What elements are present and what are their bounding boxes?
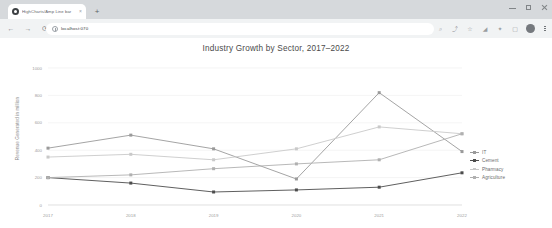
browser-tab[interactable]: HighCharts/Amp Line bar × [8,4,86,19]
browser-window: HighCharts/Amp Line bar × + ← → ⟳ localh… [0,0,552,228]
cast-icon[interactable]: ◢ [481,25,489,33]
legend-marker-icon [470,176,479,180]
tab-strip: HighCharts/Amp Line bar × + [0,0,552,19]
legend-label: IT [482,150,486,155]
data-point [129,153,132,156]
x-axis-tick: 2020 [292,213,302,218]
legend-label: Agriculture [482,175,505,180]
site-info-icon[interactable] [52,26,58,32]
line-chart: 0200400600800100020172018201920202021202… [0,38,552,228]
address-bar[interactable]: localhost:070 [46,23,434,35]
y-axis-tick: 1000 [32,66,42,71]
series-line-agriculture [48,134,462,178]
data-point [47,176,50,179]
legend-label: Pharmacy [482,167,503,172]
legend-item-it[interactable]: IT [470,150,505,155]
x-axis-tick: 2019 [209,213,219,218]
data-point [212,147,215,150]
x-axis-tick: 2017 [43,213,53,218]
page-content: Industry Growth by Sector, 2017–2022 Rev… [0,38,552,228]
maximize-icon[interactable] [525,4,532,11]
close-window-icon[interactable] [541,4,548,11]
data-point [212,190,215,193]
data-point [461,171,464,174]
y-axis-tick: 600 [35,120,43,125]
series-line-pharmacy [48,127,462,160]
data-point [461,150,464,153]
data-point [129,182,132,185]
extensions-icon[interactable]: ✦ [496,25,504,33]
share-icon[interactable]: ⤴ [451,25,459,33]
x-axis-tick: 2021 [374,213,384,218]
bookmark-star-icon[interactable]: ☆ [466,25,474,33]
search-icon[interactable]: ⌕ [436,25,444,33]
y-axis-tick: 400 [35,148,43,153]
tab-close-icon[interactable]: × [79,9,82,14]
x-axis-tick: 2018 [126,213,136,218]
legend-item-agriculture[interactable]: Agriculture [470,175,505,180]
data-point [295,188,298,191]
data-point [295,147,298,150]
legend-item-pharmacy[interactable]: Pharmacy [470,167,505,172]
data-point [378,91,381,94]
legend-marker-icon [470,159,479,163]
data-point [47,156,50,159]
forward-button[interactable]: → [22,23,34,35]
data-point [212,167,215,170]
data-point [129,173,132,176]
data-point [47,147,50,150]
legend-marker-icon [470,151,479,155]
browser-toolbar: ← → ⟳ localhost:070 ⌕ ⤴ ☆ ◢ ✦ ▢ [0,19,552,38]
profile-avatar[interactable] [526,24,535,33]
data-point [129,134,132,137]
chrome-menu-icon[interactable] [542,26,548,32]
y-axis-tick: 800 [35,93,43,98]
legend-item-cement[interactable]: Cement [470,158,505,163]
data-point [378,125,381,128]
y-axis-tick: 200 [35,175,43,180]
data-point [212,158,215,161]
x-axis-tick: 2022 [457,213,467,218]
new-tab-button[interactable]: + [92,7,102,17]
chart-legend: ITCementPharmacyAgriculture [470,150,505,180]
toolbar-icon-group: ⌕ ⤴ ☆ ◢ ✦ ▢ [436,19,548,38]
data-point [295,162,298,165]
data-point [295,177,298,180]
window-controls [509,4,548,11]
data-point [378,186,381,189]
data-point [461,132,464,135]
back-button[interactable]: ← [5,23,17,35]
split-screen-icon[interactable]: ▢ [511,25,519,33]
tab-title: HighCharts/Amp Line bar [22,9,76,14]
legend-marker-icon [470,167,479,171]
minimize-icon[interactable] [509,4,516,11]
legend-label: Cement [482,158,499,163]
site-favicon-icon [12,8,19,15]
y-axis-tick: 0 [40,203,43,208]
address-bar-url: localhost:070 [61,26,88,31]
data-point [378,158,381,161]
